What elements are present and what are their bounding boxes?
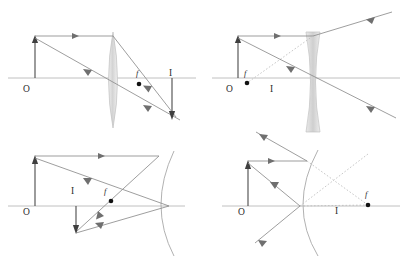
panel-concave-mirror: O f I [8, 151, 185, 256]
focal-point-label: f [104, 186, 108, 196]
ray-parallel-arrowhead [268, 158, 275, 164]
origin-label: O [23, 207, 30, 217]
ray-parallel-refracted [113, 36, 176, 117]
focal-point-dot [245, 81, 250, 86]
image-label: I [335, 206, 338, 216]
ray-parallel-arrowhead [274, 33, 281, 39]
focal-point-dot [366, 203, 371, 208]
panel-diverging-lens: O f I [212, 12, 400, 132]
ray-parallel-refracted-arrowhead [143, 86, 152, 93]
ray-center-arrowhead-1 [83, 69, 92, 76]
image-arrow-head [169, 111, 175, 120]
ray-center-arrowhead-1 [286, 66, 295, 73]
ray-center-arrowhead-2 [366, 106, 375, 113]
ray-center-arrowhead-2 [143, 105, 152, 112]
ray-parallel-arrowhead [98, 153, 105, 159]
ray-reflected-arrowhead-1 [259, 134, 268, 141]
ray-diverged-arrowhead [366, 17, 375, 24]
virtual-ray-vertex-behind [300, 154, 368, 206]
focal-point-label: f [365, 189, 369, 199]
image-label: I [71, 186, 74, 196]
ray-parallel-arrowhead [72, 33, 79, 39]
ray-parallel-diverged [313, 12, 392, 36]
virtual-ray-parallel-to-focus [307, 161, 368, 205]
ray-vertex-reflected [255, 206, 300, 243]
origin-label: O [226, 84, 233, 94]
focal-point-dot [109, 199, 114, 204]
panel-convex-mirror: O f I [222, 132, 400, 256]
focal-point-label: f [244, 68, 248, 78]
optics-figure-root: O f I O [0, 0, 405, 259]
image-label: I [169, 68, 172, 78]
ray-center-through-lens [35, 38, 180, 120]
origin-label: O [23, 84, 30, 94]
ray-to-vertex-arrowhead [83, 178, 92, 185]
biconcave-lens [306, 32, 320, 132]
image-label: I [270, 84, 273, 94]
origin-label: O [238, 207, 245, 217]
focal-point-dot [137, 82, 142, 87]
optics-ray-diagram-svg: O f I O [0, 0, 405, 259]
convex-mirror-arc [303, 150, 318, 256]
ray-reflected-arrowhead-2 [258, 240, 267, 247]
panel-converging-lens: O f I [8, 32, 196, 128]
